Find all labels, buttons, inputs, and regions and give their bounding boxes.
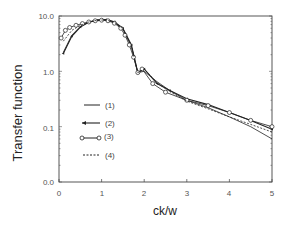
circle-marker-icon — [227, 111, 231, 115]
x-tick-label: 4 — [227, 189, 232, 198]
series-4 — [63, 20, 272, 132]
legend: (1) (2) (3) (4) — [80, 101, 115, 160]
transfer-function-chart: 0 1 2 3 4 5 0.0 0.1 1.0 10.0 ck/w Transf… — [0, 0, 288, 228]
y-tick-label: 0.1 — [43, 124, 55, 133]
circle-marker-icon — [59, 36, 63, 40]
x-tick-label: 1 — [100, 189, 105, 198]
legend-item-3: (3) — [80, 132, 114, 141]
series-3 — [59, 18, 274, 128]
legend-label: (1) — [105, 101, 115, 110]
legend-item-4: (4) — [83, 151, 115, 160]
y-tick-label: 10.0 — [38, 12, 54, 21]
legend-label: (2) — [105, 119, 115, 128]
y-axis-title: Transfer function — [10, 64, 25, 161]
circle-marker-icon — [74, 23, 78, 27]
circle-marker-icon — [63, 28, 67, 32]
x-tick-label: 0 — [57, 189, 62, 198]
circle-marker-icon — [68, 25, 72, 29]
circle-marker-icon — [270, 125, 274, 129]
circle-marker-icon — [80, 22, 84, 26]
x-axis-title: ck/w — [153, 204, 177, 218]
circle-marker-icon — [164, 90, 168, 94]
x-tick-labels: 0 1 2 3 4 5 — [57, 189, 275, 198]
y-tick-label: 0.0 — [43, 178, 55, 187]
arrow-head-icon — [82, 121, 86, 125]
series-2 — [62, 18, 273, 130]
legend-item-1: (1) — [84, 101, 115, 110]
circle-marker-icon — [80, 136, 84, 140]
circle-marker-icon — [97, 136, 101, 140]
y-axis-ticks — [59, 16, 272, 182]
x-tick-label: 2 — [142, 189, 147, 198]
x-tick-label: 3 — [185, 189, 190, 198]
circle-marker-icon — [249, 118, 253, 122]
circle-marker-icon — [151, 82, 155, 86]
legend-item-2: (2) — [82, 119, 115, 128]
series-layer — [59, 18, 274, 139]
x-tick-label: 5 — [270, 189, 275, 198]
legend-label: (3) — [104, 132, 114, 141]
circle-marker-icon — [206, 104, 210, 108]
y-tick-labels: 0.0 0.1 1.0 10.0 — [38, 12, 54, 187]
plot-frame — [59, 16, 272, 182]
y-tick-label: 1.0 — [43, 68, 55, 77]
arrow-marker-icon — [62, 52, 65, 54]
legend-label: (4) — [105, 151, 115, 160]
